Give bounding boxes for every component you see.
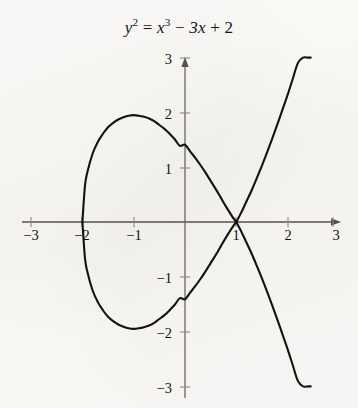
x-tick-label-1: 1 xyxy=(232,227,239,243)
y-tick-label--2: −2 xyxy=(157,325,172,341)
x-tick-label--3: −3 xyxy=(23,227,38,243)
x-axis xyxy=(22,218,341,225)
y-tick-label--3: −3 xyxy=(157,380,172,396)
curve-unbounded-branch-upper xyxy=(236,57,310,222)
x-tick-label--1: −1 xyxy=(126,227,141,243)
x-tick-label-3: 3 xyxy=(332,227,339,243)
elliptic-curve-figure: y2 = x3 − 3x + 2 xyxy=(0,0,358,408)
x-tick-label-2: 2 xyxy=(284,227,291,243)
y-tick-label--1: −1 xyxy=(157,270,172,286)
y-axis xyxy=(181,57,188,398)
y-tick-label-3: 3 xyxy=(165,51,172,67)
curve-unbounded-branch-lower xyxy=(236,222,310,387)
curve-oval-component-upper xyxy=(82,115,236,222)
y-tick-label-2: 2 xyxy=(165,106,172,122)
y-tick-label-1: 1 xyxy=(165,161,172,177)
plot-canvas: −3 −2 −1 1 2 3 3 2 1 −1 −2 −3 xyxy=(0,0,358,408)
